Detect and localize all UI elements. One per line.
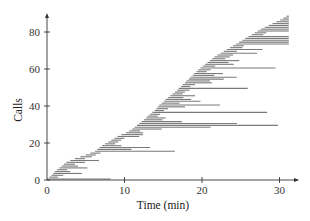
y-tick-label-80: 80 bbox=[29, 26, 41, 38]
x-axis-arrow-icon bbox=[294, 178, 299, 182]
x-tick-label-30: 30 bbox=[274, 184, 286, 196]
x-tick-label-20: 20 bbox=[197, 184, 209, 196]
y-axis-arrow-icon bbox=[45, 13, 49, 18]
call-bars bbox=[47, 16, 289, 179]
x-tick-label-10: 10 bbox=[119, 184, 131, 196]
y-tick-label-60: 60 bbox=[29, 63, 41, 75]
y-tick-label-0: 0 bbox=[35, 174, 41, 186]
y-axis-title: Calls bbox=[12, 98, 24, 122]
x-axis bbox=[47, 177, 299, 183]
y-tick-label-20: 20 bbox=[29, 137, 41, 149]
x-axis-title: Time (min) bbox=[137, 199, 189, 212]
y-tick-label-40: 40 bbox=[29, 100, 41, 112]
call-interval-chart: 0 10 20 30 0 20 40 60 80 Time (min) Call… bbox=[0, 0, 310, 221]
y-axis bbox=[44, 13, 50, 180]
x-tick-label-0: 0 bbox=[44, 184, 50, 196]
